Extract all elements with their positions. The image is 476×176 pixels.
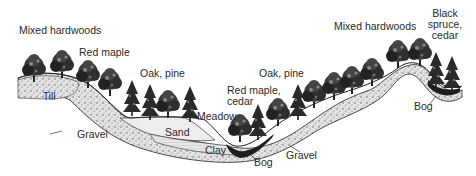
label-oak-pine-right: Oak, pine (259, 68, 304, 79)
label-red-maple-left: Red maple (79, 47, 130, 58)
label-red-maple-cedar-line2: cedar (227, 96, 281, 107)
label-clay: Clay (205, 145, 226, 156)
label-oak-pine-left: Oak, pine (140, 68, 185, 79)
label-gravel-right: Gravel (286, 150, 317, 161)
label-black-spruce-cedar: Black spruce, cedar (423, 8, 467, 41)
label-sand: Sand (165, 127, 190, 138)
label-black-spruce-line3: cedar (423, 30, 467, 41)
label-red-maple-cedar: Red maple, cedar (227, 85, 281, 107)
label-gravel-left: Gravel (77, 129, 108, 140)
label-mixed-hardwoods-right: Mixed hardwoods (334, 21, 416, 32)
label-till: Till (43, 91, 55, 102)
label-mixed-hardwoods-left: Mixed hardwoods (19, 25, 101, 36)
label-bog-center: Bog (254, 157, 273, 168)
trees-oak-pine-left (123, 80, 199, 122)
label-meadow: Meadow (197, 111, 237, 122)
label-bog-right: Bog (414, 101, 433, 112)
